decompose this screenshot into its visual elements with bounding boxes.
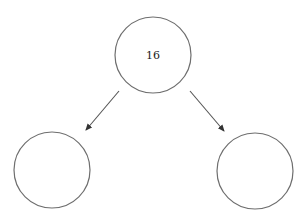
right-child-circle <box>217 133 293 209</box>
left-child-node <box>14 132 90 208</box>
right-child-node <box>217 133 293 209</box>
left-child-circle <box>14 132 90 208</box>
edge-root-to-left <box>86 91 119 130</box>
root-node-label: 16 <box>146 49 160 62</box>
edge-root-to-right <box>190 91 224 131</box>
tree-diagram: 16 <box>0 0 307 223</box>
root-node: 16 <box>115 17 191 93</box>
